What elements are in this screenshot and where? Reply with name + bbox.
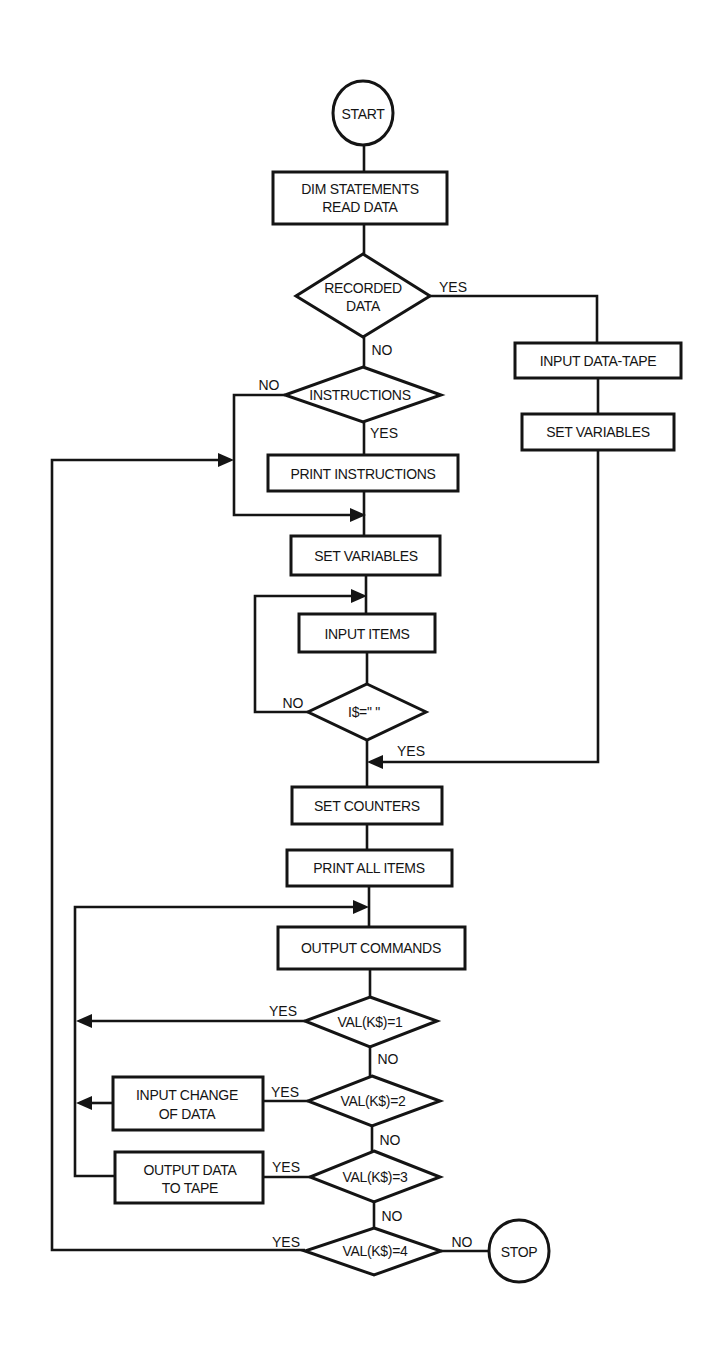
stop-node: STOP (489, 1220, 549, 1282)
start-node: START (333, 81, 393, 145)
val4-decision: VAL(K$)=4 (305, 1228, 441, 1275)
input-change-label-1: INPUT CHANGE (136, 1087, 238, 1103)
recorded-no-label: NO (372, 342, 393, 358)
input-change-box (113, 1077, 263, 1130)
val2-yes-label: YES (271, 1084, 299, 1100)
input-data-tape-node: INPUT DATA-TAPE (515, 343, 681, 378)
output-data-tape-label-1: OUTPUT DATA (143, 1162, 237, 1178)
start-label: START (341, 106, 385, 122)
val3-no-label: NO (382, 1208, 403, 1224)
input-items-label: INPUT ITEMS (324, 626, 409, 642)
print-instructions-node: PRINT INSTRUCTIONS (268, 455, 458, 491)
flowchart-canvas: START DIM STATEMENTS READ DATA RECORDED … (0, 0, 718, 1354)
instructions-no-label: NO (259, 377, 280, 393)
val2-no-label: NO (380, 1132, 401, 1148)
val3-label: VAL(K$)=3 (342, 1169, 408, 1185)
dim-statements-box (273, 172, 447, 224)
input-items-node: INPUT ITEMS (299, 614, 435, 652)
i-empty-decision: I$=" " (308, 684, 426, 740)
val2-decision: VAL(K$)=2 (308, 1076, 440, 1126)
val1-no-label: NO (378, 1051, 399, 1067)
input-data-tape-label: INPUT DATA-TAPE (540, 353, 657, 369)
recorded-data-label-2: DATA (346, 298, 381, 314)
print-all-items-node: PRINT ALL ITEMS (287, 850, 452, 886)
dim-statements-label-2: READ DATA (322, 199, 398, 215)
set-variables-main-node: SET VARIABLES (291, 536, 440, 575)
arrowhead (367, 755, 383, 769)
recorded-yes-label: YES (439, 279, 467, 295)
print-all-items-label: PRINT ALL ITEMS (313, 860, 424, 876)
val4-yes-label: YES (272, 1234, 300, 1250)
output-commands-node: OUTPUT COMMANDS (278, 927, 465, 969)
set-counters-node: SET COUNTERS (292, 787, 442, 824)
set-variables-right-label: SET VARIABLES (546, 424, 650, 440)
edge-recorded-yes (430, 296, 597, 343)
stop-label: STOP (501, 1244, 538, 1260)
set-counters-label: SET COUNTERS (314, 798, 420, 814)
input-change-label-2: OF DATA (159, 1106, 216, 1122)
instructions-decision: INSTRUCTIONS (285, 367, 441, 422)
output-data-tape-label-2: TO TAPE (162, 1180, 218, 1196)
output-data-tape-node: OUTPUT DATA TO TAPE (115, 1152, 263, 1203)
input-change-node: INPUT CHANGE OF DATA (113, 1077, 263, 1130)
arrowhead (76, 1014, 92, 1028)
recorded-data-decision: RECORDED DATA (296, 254, 430, 337)
val4-no-label: NO (452, 1234, 473, 1250)
val2-label: VAL(K$)=2 (340, 1093, 406, 1109)
val3-decision: VAL(K$)=3 (310, 1151, 440, 1202)
set-variables-main-label: SET VARIABLES (314, 548, 418, 564)
output-commands-label: OUTPUT COMMANDS (301, 940, 441, 956)
i-empty-yes-label: YES (397, 743, 425, 759)
arrowhead (353, 900, 369, 914)
dim-statements-label-1: DIM STATEMENTS (301, 181, 418, 197)
arrowhead (351, 589, 367, 603)
instructions-yes-label: YES (370, 425, 398, 441)
val1-label: VAL(K$)=1 (337, 1014, 403, 1030)
set-variables-right-node: SET VARIABLES (522, 414, 674, 450)
i-empty-label: I$=" " (348, 704, 380, 720)
recorded-data-label-1: RECORDED (324, 280, 402, 296)
arrowhead (218, 453, 234, 467)
val3-yes-label: YES (272, 1159, 300, 1175)
val1-yes-label: YES (269, 1003, 297, 1019)
arrowhead (76, 1096, 92, 1110)
dim-statements-node: DIM STATEMENTS READ DATA (273, 172, 447, 224)
instructions-label: INSTRUCTIONS (309, 387, 410, 403)
val1-decision: VAL(K$)=1 (305, 997, 437, 1047)
i-empty-no-label: NO (283, 695, 304, 711)
val4-label: VAL(K$)=4 (342, 1243, 408, 1259)
print-instructions-label: PRINT INSTRUCTIONS (290, 466, 435, 482)
